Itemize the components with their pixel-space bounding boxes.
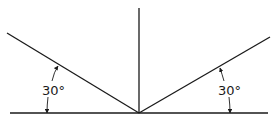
- right-ray: [139, 37, 270, 113]
- left-angle-label: 30°: [42, 83, 65, 98]
- left-angle-arc-lower: [47, 97, 48, 113]
- right-angle-arc-lower: [229, 97, 230, 113]
- left-angle-arc-upper: [52, 66, 58, 81]
- right-angle-label: 30°: [218, 83, 241, 98]
- left-ray: [7, 33, 139, 113]
- right-angle-arc-upper: [220, 68, 224, 81]
- reflection-angle-diagram: 30° 30°: [0, 0, 279, 120]
